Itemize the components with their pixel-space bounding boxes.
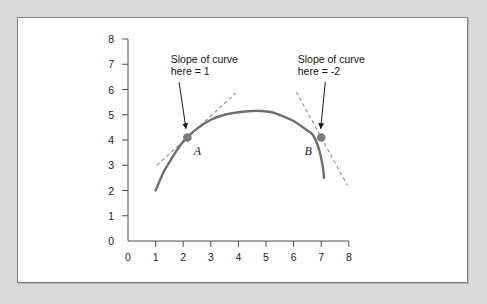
y-tick-label-7: 7: [108, 58, 114, 70]
y-tick-label-6: 6: [108, 84, 114, 96]
curve-point-markers: [183, 133, 325, 142]
annotation-arrow-a: [179, 82, 186, 129]
y-axis-tick-labels: 8 7 6 5 4 3 2 1 0: [108, 33, 114, 247]
annotation-b-line2: here = -2: [298, 65, 340, 77]
point-marker-a: [183, 133, 192, 142]
x-axis-ticks: [156, 241, 349, 247]
curve-path: [156, 111, 324, 191]
x-tick-label-0: 0: [125, 251, 131, 263]
x-tick-label-8: 8: [346, 251, 352, 263]
figure-frame: 8 7 6 5 4 3 2 1 0: [17, 17, 468, 283]
y-tick-label-8: 8: [108, 33, 114, 45]
x-tick-label-2: 2: [180, 251, 186, 263]
x-tick-label-4: 4: [235, 251, 241, 263]
annotation-a: Slope of curve here = 1: [171, 53, 238, 77]
point-marker-b: [317, 133, 326, 142]
point-label-a: A: [193, 144, 202, 158]
x-tick-label-5: 5: [263, 251, 269, 263]
annotation-b-line1: Slope of curve: [298, 53, 365, 65]
y-tick-label-4: 4: [108, 134, 114, 146]
slope-of-curve-chart: 8 7 6 5 4 3 2 1 0: [18, 18, 469, 284]
y-axis-ticks: [122, 39, 128, 216]
y-tick-label-3: 3: [108, 159, 114, 171]
annotation-a-line1: Slope of curve: [171, 53, 238, 65]
x-tick-label-3: 3: [208, 251, 214, 263]
x-tick-label-1: 1: [153, 251, 159, 263]
annotation-b: Slope of curve here = -2: [298, 53, 365, 77]
x-tick-label-7: 7: [318, 251, 324, 263]
point-label-b: B: [305, 144, 313, 158]
annotation-a-line2: here = 1: [171, 65, 210, 77]
y-tick-label-0: 0: [108, 235, 114, 247]
y-tick-label-1: 1: [108, 210, 114, 222]
annotation-arrow-b: [321, 82, 326, 129]
chart-area: 8 7 6 5 4 3 2 1 0: [18, 18, 469, 284]
y-tick-label-5: 5: [108, 109, 114, 121]
x-tick-label-6: 6: [291, 251, 297, 263]
x-axis-tick-labels: 0 1 2 3 4 5 6 7 8: [125, 251, 352, 263]
y-tick-label-2: 2: [108, 185, 114, 197]
